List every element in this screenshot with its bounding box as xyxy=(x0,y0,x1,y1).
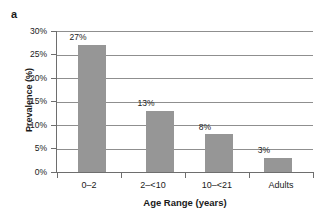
x-tick-label-0-2: 0–2 xyxy=(56,180,122,190)
x-tick-mark-4 xyxy=(313,173,314,178)
y-tick-label-20: 20% xyxy=(3,74,47,82)
gridline-30 xyxy=(57,31,313,32)
x-tick-label-10-lt21: 10–<21 xyxy=(184,180,250,190)
bar-label-10-lt21: 8% xyxy=(172,123,238,132)
x-tick-mark-1 xyxy=(121,173,122,178)
panel-label: a xyxy=(11,8,17,20)
y-tick-label-25: 25% xyxy=(3,50,47,58)
y-tick-label-30: 30% xyxy=(3,27,47,35)
y-tick-label-10: 10% xyxy=(3,121,47,129)
x-tick-label-2-lt10: 2–<10 xyxy=(120,180,186,190)
x-tick-mark-0 xyxy=(57,173,58,178)
bar-label-adults: 3% xyxy=(231,146,297,155)
y-tick-label-15: 15% xyxy=(3,97,47,105)
x-tick-mark-3 xyxy=(249,173,250,178)
figure-panel-a: a Prevalence (%) 30% 25% 20% 15% 10% 5% … xyxy=(0,0,322,216)
bar-0-2[interactable] xyxy=(78,45,106,172)
y-tick-label-5: 5% xyxy=(3,144,47,152)
bar-10-lt21[interactable] xyxy=(205,134,233,172)
bar-adults[interactable] xyxy=(264,158,292,172)
x-axis-title: Age Range (years) xyxy=(57,197,313,208)
bar-label-0-2: 27% xyxy=(45,33,111,42)
bar-label-2-lt10: 13% xyxy=(113,99,179,108)
x-tick-label-adults: Adults xyxy=(248,180,314,190)
y-tick-label-0: 0% xyxy=(3,168,47,176)
bar-2-lt10[interactable] xyxy=(146,111,174,172)
x-tick-mark-2 xyxy=(185,173,186,178)
